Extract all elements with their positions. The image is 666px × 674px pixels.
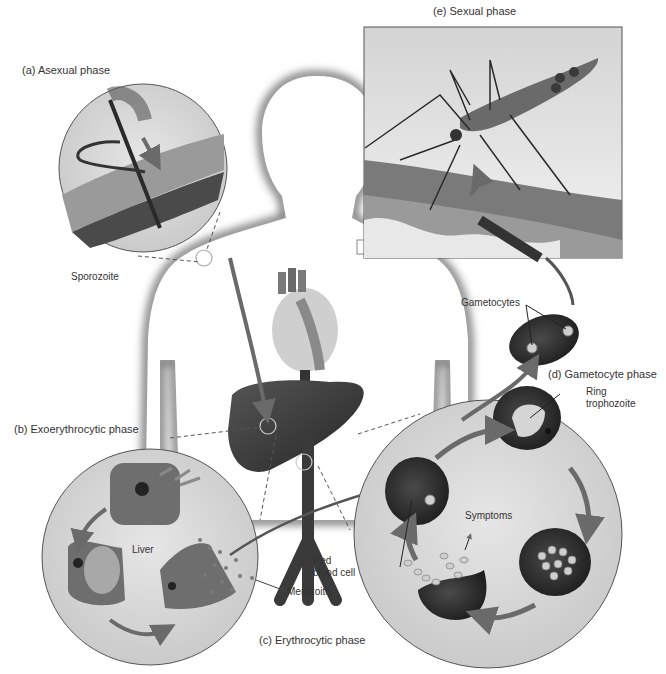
label-trophozoite: trophozoite	[586, 398, 635, 410]
label-merozoite: Merozoite	[287, 586, 331, 598]
label-liver: Liver	[132, 544, 154, 556]
box-to-gametocyte-arrow	[546, 258, 573, 305]
label-blood-cell: blood cell	[313, 567, 355, 579]
label-exoerythrocytic-phase: (b) Exoerythrocytic phase	[14, 423, 139, 435]
label-red: Red	[313, 555, 331, 567]
label-erythrocytic-phase: (c) Erythrocytic phase	[259, 634, 365, 646]
label-sexual-phase: (e) Sexual phase	[433, 5, 516, 17]
label-ring: Ring	[586, 386, 607, 398]
label-gametocyte-phase: (d) Gametocyte phase	[548, 368, 657, 380]
malaria-life-cycle-diagram: (a) Asexual phase (b) Exoerythrocytic ph…	[0, 0, 666, 674]
label-sporozoite: Sporozoite	[71, 271, 119, 283]
asexual-phase-inset	[59, 84, 227, 252]
label-symptoms: Symptoms	[465, 510, 512, 522]
rbc-infected	[385, 457, 449, 525]
label-gametocytes: Gametocytes	[461, 297, 520, 309]
sexual-phase-inset	[364, 27, 622, 258]
gametocyte-cell	[502, 305, 586, 375]
label-asexual-phase: (a) Asexual phase	[22, 64, 110, 76]
